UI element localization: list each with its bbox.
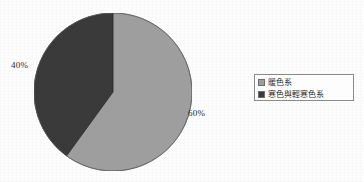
- legend-label-warm: 暖色系: [268, 78, 292, 87]
- legend-label-cool: 寒色與輕寒色系: [268, 90, 324, 99]
- legend: 暖色系 寒色與輕寒色系: [254, 74, 354, 101]
- legend-swatch-cool-icon: [258, 91, 265, 98]
- legend-item-warm[interactable]: 暖色系: [258, 77, 350, 88]
- pie-label-cool-percent: 40%: [11, 60, 28, 70]
- legend-swatch-warm-icon: [258, 79, 265, 86]
- legend-item-cool[interactable]: 寒色與輕寒色系: [258, 89, 350, 100]
- pie-chart-figure: 40% 60% 暖色系 寒色與輕寒色系: [0, 0, 364, 182]
- pie-label-warm-percent: 60%: [188, 108, 205, 118]
- pie-chart: [34, 13, 192, 171]
- pie-chart-svg: [34, 13, 192, 171]
